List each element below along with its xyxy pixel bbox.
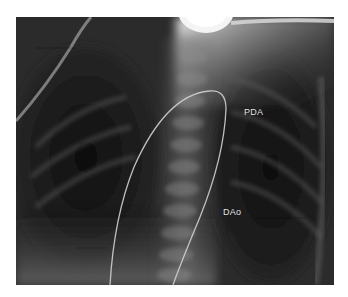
figure-page: PDA DAo — [0, 0, 348, 297]
chest-xray-image: PDA DAo — [16, 17, 334, 285]
xray-graphic — [16, 17, 334, 285]
dao-label: DAo — [223, 207, 241, 217]
pda-label: PDA — [244, 107, 263, 117]
